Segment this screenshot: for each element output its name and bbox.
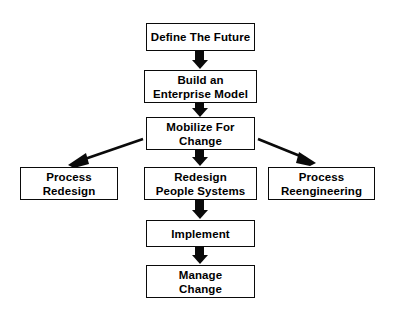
node-label: Implement (150, 227, 251, 241)
node-redesign-people-systems[interactable]: Redesign People Systems (144, 167, 257, 200)
node-label: Mobilize For Change (150, 120, 251, 148)
node-label: Redesign People Systems (148, 170, 253, 198)
node-label: Define The Future (150, 30, 251, 44)
node-label: Process Redesign (24, 170, 114, 198)
node-mobilize-for-change[interactable]: Mobilize For Change (146, 117, 255, 150)
node-build-enterprise-model[interactable]: Build an Enterprise Model (144, 70, 257, 103)
diagram-title: Enterprise Change Process Flowchart (0, 21, 1, 22)
node-label: Build an Enterprise Model (148, 73, 253, 101)
flowchart-canvas: Enterprise Change Process Flowchart Defi… (0, 0, 393, 310)
node-manage-change[interactable]: Manage Change (146, 265, 255, 298)
node-define-the-future[interactable]: Define The Future (146, 23, 255, 51)
node-implement[interactable]: Implement (146, 220, 255, 247)
node-label: Manage Change (150, 268, 251, 296)
node-process-reengineering[interactable]: Process Reengineering (268, 167, 375, 200)
arrow-mobilize-to-process-redesign (68, 139, 143, 168)
node-process-redesign[interactable]: Process Redesign (20, 167, 118, 200)
node-label: Process Reengineering (272, 170, 371, 198)
arrow-mobilize-to-process-reengineering (258, 139, 316, 166)
